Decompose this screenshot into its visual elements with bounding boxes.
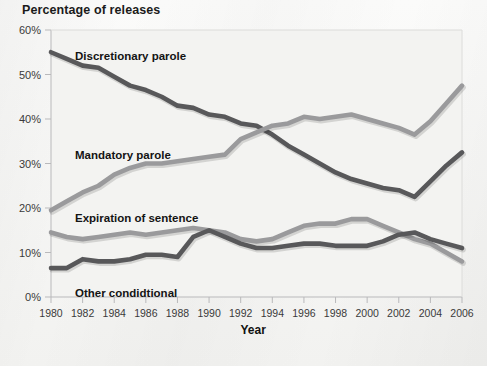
y-tick-label: 10% xyxy=(19,247,41,259)
x-tick-label: 1980 xyxy=(39,307,63,319)
x-tick-label: 2002 xyxy=(387,307,411,319)
series-label-expiration: Expiration of sentence xyxy=(75,212,198,224)
x-tick-label: 2006 xyxy=(450,307,474,319)
series-label-mandatory: Mandatory parole xyxy=(75,149,171,161)
x-tick-label: 1986 xyxy=(134,307,158,319)
series-label-discretionary: Discretionary parole xyxy=(75,50,186,62)
series-label-other: Other condidtional xyxy=(75,287,177,299)
x-tick-label: 1988 xyxy=(166,307,190,319)
x-tick-label: 1998 xyxy=(324,307,348,319)
x-axis-title: Year xyxy=(241,323,266,337)
x-tick-label: 2004 xyxy=(419,307,443,319)
x-tick-label: 1982 xyxy=(71,307,95,319)
x-tick-label: 1994 xyxy=(261,307,285,319)
y-tick-label: 60% xyxy=(19,24,41,36)
y-tick-label: 40% xyxy=(19,113,41,125)
x-tick-label: 1992 xyxy=(229,307,253,319)
y-tick-label: 30% xyxy=(19,158,41,170)
x-tick-label: 1996 xyxy=(292,307,316,319)
y-tick-label: 20% xyxy=(19,202,41,214)
x-tick-label: 2000 xyxy=(355,307,379,319)
x-tick-label: 1990 xyxy=(197,307,221,319)
x-tick-label: 1984 xyxy=(103,307,127,319)
y-tick-label: 0% xyxy=(25,291,41,303)
y-tick-label: 50% xyxy=(19,69,41,81)
y-axis-ticks: 0%10%20%30%40%50%60% xyxy=(19,24,51,303)
line-chart: 0%10%20%30%40%50%60% 1980198219841986198… xyxy=(0,0,487,366)
chart-page: Percentage of releases 0%10%20%30%40%50%… xyxy=(0,0,487,366)
x-axis-ticks: 1980198219841986198819901992199419961998… xyxy=(39,297,474,319)
plot-background xyxy=(51,30,462,297)
